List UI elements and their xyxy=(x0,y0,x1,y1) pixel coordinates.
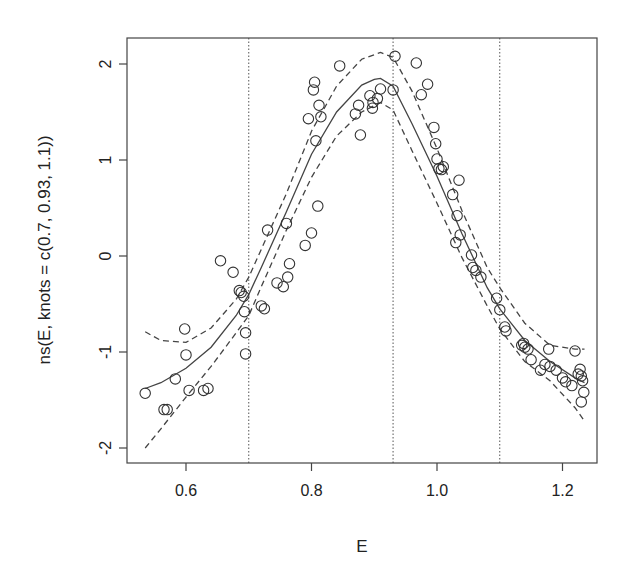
data-point xyxy=(313,201,323,211)
data-point xyxy=(375,84,385,94)
data-point xyxy=(239,307,249,317)
data-point xyxy=(283,272,293,282)
y-tick-label: -2 xyxy=(97,441,114,455)
x-tick-label: 1.0 xyxy=(426,482,448,499)
data-point xyxy=(236,287,246,297)
data-point xyxy=(303,114,313,124)
data-point xyxy=(300,240,310,250)
x-tick-label: 1.2 xyxy=(551,482,573,499)
data-point xyxy=(180,324,190,334)
data-point xyxy=(567,380,577,390)
data-point xyxy=(228,267,238,277)
data-point xyxy=(579,387,589,397)
y-axis-title: ns(E, knots = c(0.7, 0.93, 1.1)) xyxy=(35,135,54,364)
data-point xyxy=(576,397,586,407)
data-point xyxy=(448,189,458,199)
confidence-band xyxy=(145,102,584,448)
data-point xyxy=(429,122,439,132)
data-point xyxy=(355,130,365,140)
data-point xyxy=(278,282,288,292)
y-tick-label: 0 xyxy=(97,251,114,260)
data-point xyxy=(309,77,319,87)
knot-lines xyxy=(249,38,500,463)
data-point xyxy=(170,374,180,384)
data-points xyxy=(140,51,589,415)
x-tick-label: 0.8 xyxy=(300,482,322,499)
data-point xyxy=(284,259,294,269)
data-point xyxy=(215,256,225,266)
data-point xyxy=(335,61,345,71)
data-point xyxy=(181,350,191,360)
data-point xyxy=(454,175,464,185)
data-point xyxy=(353,100,363,110)
data-point xyxy=(431,139,441,149)
data-point xyxy=(468,262,478,272)
data-point xyxy=(140,388,150,398)
data-point xyxy=(306,228,316,238)
data-point xyxy=(259,304,269,314)
curves xyxy=(145,53,584,449)
data-point xyxy=(281,218,291,228)
data-point xyxy=(451,237,461,247)
data-point xyxy=(452,211,462,221)
data-point xyxy=(314,100,324,110)
data-point xyxy=(256,301,266,311)
data-point xyxy=(422,79,432,89)
data-point xyxy=(184,385,194,395)
y-axis: -2-1012 xyxy=(97,59,127,455)
data-point xyxy=(526,355,536,365)
x-axis: 0.60.81.01.2 xyxy=(126,463,597,499)
data-point xyxy=(411,58,421,68)
y-tick-label: -1 xyxy=(97,345,114,359)
y-tick-label: 1 xyxy=(97,155,114,164)
data-point xyxy=(272,278,282,288)
x-axis-title: E xyxy=(356,537,367,556)
data-point xyxy=(455,230,465,240)
data-point xyxy=(570,346,580,356)
spline-plot: 0.60.81.01.2 -2-1012 E ns(E, knots = c(0… xyxy=(0,0,626,580)
x-tick-label: 0.6 xyxy=(175,482,197,499)
y-tick-label: 2 xyxy=(97,59,114,68)
data-point xyxy=(501,326,511,336)
data-point xyxy=(544,344,554,354)
data-point xyxy=(416,90,426,100)
